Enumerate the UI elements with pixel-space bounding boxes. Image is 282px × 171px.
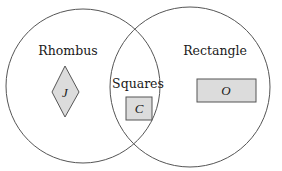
rectangle-letter: O — [221, 83, 231, 98]
venn-diagram: Rhombus Rectangle Squares J C O — [0, 0, 282, 171]
rectangle-set-label: Rectangle — [183, 43, 247, 58]
square-letter: C — [135, 101, 144, 116]
rhombus-set-label: Rhombus — [38, 43, 97, 58]
intersection-label: Squares — [112, 76, 164, 91]
